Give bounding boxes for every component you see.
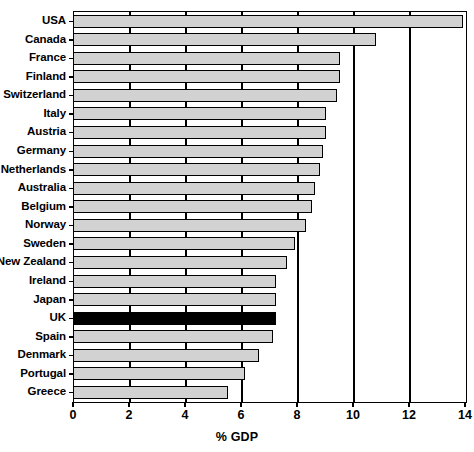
category-label: Greece (28, 382, 66, 402)
category-label: Finland (26, 67, 66, 87)
x-tick-mark (352, 402, 354, 407)
x-tick-label: 12 (402, 408, 416, 422)
x-tick-label: 0 (70, 408, 77, 422)
bar-row (74, 198, 466, 218)
category-label: Japan (33, 290, 66, 310)
x-tick-label: 2 (126, 408, 133, 422)
bar (73, 52, 340, 65)
category-label: Austria (27, 122, 66, 142)
x-tick-label: 10 (346, 408, 360, 422)
bar-chart: USACanadaFranceFinlandSwitzerlandItalyAu… (0, 0, 474, 452)
x-tick-mark (72, 402, 74, 407)
category-label: Spain (35, 327, 66, 347)
bar-row (74, 123, 466, 143)
bar (73, 70, 340, 83)
category-axis: USACanadaFranceFinlandSwitzerlandItalyAu… (0, 11, 70, 401)
category-label: Ireland (29, 271, 66, 291)
bar-row (74, 346, 466, 366)
x-tick-label: 14 (458, 408, 472, 422)
category-label: France (29, 48, 66, 68)
bar (73, 237, 295, 250)
bar (73, 15, 463, 28)
bar (73, 107, 326, 120)
bar-row (74, 49, 466, 69)
x-tick-mark (296, 402, 298, 407)
x-tick-mark (128, 402, 130, 407)
x-tick-label: 4 (182, 408, 189, 422)
bar-row (74, 383, 466, 403)
bar-row (74, 253, 466, 273)
bar (73, 89, 337, 102)
x-tick-mark (184, 402, 186, 407)
category-label: Denmark (17, 345, 66, 365)
category-label: USA (42, 11, 66, 31)
bar-row (74, 235, 466, 255)
bar (73, 182, 315, 195)
bar (73, 126, 326, 139)
bar-row (74, 328, 466, 348)
bar-row (74, 309, 466, 329)
x-tick-label: 8 (294, 408, 301, 422)
bar (73, 219, 306, 232)
bars-layer (74, 12, 466, 402)
bar-row (74, 31, 466, 51)
category-label: Netherlands (1, 160, 66, 180)
bar (73, 330, 273, 343)
bar-row (74, 272, 466, 292)
x-tick-label: 6 (238, 408, 245, 422)
category-label: Australia (18, 178, 66, 198)
bar (73, 256, 287, 269)
category-label: Norway (25, 215, 66, 235)
bar (73, 145, 323, 158)
plot-area (73, 11, 467, 403)
value-axis: 02468101214 (73, 402, 465, 426)
bar (73, 33, 376, 46)
bar-row (74, 68, 466, 88)
category-label: Switzerland (3, 85, 66, 105)
bar (73, 312, 276, 325)
x-axis-title: % GDP (0, 430, 474, 444)
category-label: Canada (25, 30, 66, 50)
bar-row (74, 86, 466, 106)
bar (73, 386, 228, 399)
x-tick-mark (464, 402, 466, 407)
bar-row (74, 12, 466, 32)
bar-row (74, 161, 466, 181)
category-label: UK (50, 308, 66, 328)
bar (73, 367, 245, 380)
bar-row (74, 365, 466, 385)
bar-row (74, 291, 466, 311)
bar (73, 163, 320, 176)
x-tick-mark (408, 402, 410, 407)
category-label: Portugal (20, 364, 66, 384)
category-label: Italy (43, 104, 66, 124)
bar (73, 349, 259, 362)
bar-row (74, 216, 466, 236)
bar (73, 275, 276, 288)
bar-row (74, 142, 466, 162)
category-label: Sweden (23, 234, 66, 254)
bar-row (74, 179, 466, 199)
bar (73, 200, 312, 213)
category-label: New Zealand (0, 252, 66, 272)
category-label: Germany (17, 141, 66, 161)
bar (73, 293, 276, 306)
x-tick-mark (240, 402, 242, 407)
bar-row (74, 105, 466, 125)
category-label: Belgium (21, 197, 66, 217)
